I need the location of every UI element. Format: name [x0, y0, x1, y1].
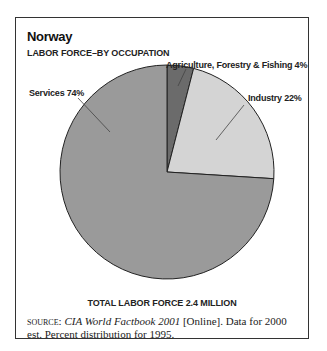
total-labor-force: TOTAL LABOR FORCE 2.4 MILLION — [16, 298, 308, 308]
source-title: CIA World Factbook 2001 — [64, 315, 180, 327]
label-agriculture: Agriculture, Forestry & Fishing 4% — [166, 60, 307, 70]
label-industry: Industry 22% — [248, 93, 302, 103]
chart-frame: Norway LABOR FORCE–BY OCCUPATION Agricul… — [15, 17, 309, 339]
source-note: SOURCE: CIA World Factbook 2001 [Online]… — [27, 315, 302, 341]
source-prefix: SOURCE: — [27, 315, 62, 327]
label-services: Services 74% — [29, 88, 84, 98]
